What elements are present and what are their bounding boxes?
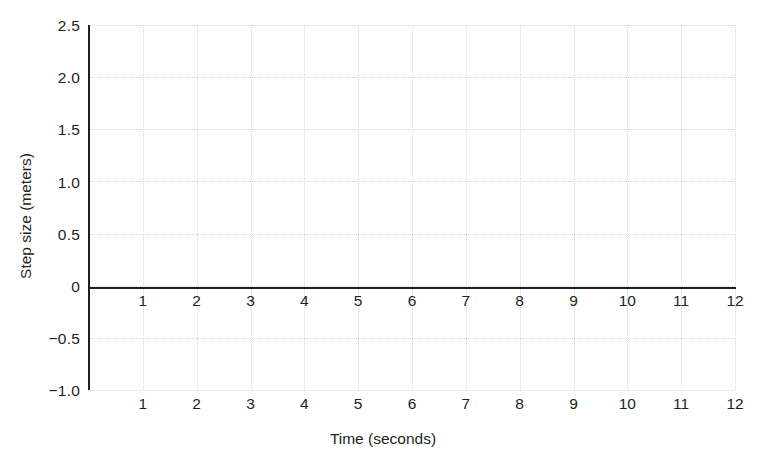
x-tick-label: 6 [392,292,432,310]
gridline-vertical-6 [412,25,413,390]
gridline-vertical-3 [251,25,252,390]
y-tick-label: 2.5 [20,17,80,35]
x-tick-label: 9 [554,292,594,310]
x-tick-label: 9 [554,395,594,413]
y-tick-label: 2.0 [20,69,80,87]
x-tick-label: 11 [661,395,701,413]
x-tick-label: 1 [123,395,163,413]
x-tick-label: 8 [500,395,540,413]
x-tick-label: 5 [338,292,378,310]
x-tick-label: 12 [715,395,755,413]
x-tick-label: 4 [284,292,324,310]
gridline-vertical-12 [735,25,736,390]
gridline-vertical-2 [197,25,198,390]
x-tick-labels-inner: 1 2 3 4 5 6 7 8 9 10 11 12 [89,292,735,312]
chart-figure: 2.5 2.0 1.5 1.0 0.5 0 −0.5 −1.0 1 2 3 4 … [0,0,766,464]
x-tick-label: 2 [177,292,217,310]
y-axis-spine [88,25,90,390]
x-tick-label: 12 [715,292,755,310]
gridline-vertical-10 [627,25,628,390]
x-tick-label: 7 [446,292,486,310]
x-axis-title: Time (seconds) [0,430,766,448]
x-tick-label: 2 [177,395,217,413]
x-tick-label: 3 [231,395,271,413]
gridline-vertical-1 [143,25,144,390]
x-tick-label: 4 [284,395,324,413]
gridline-horizontal-neg1.0 [89,390,735,391]
gridline-vertical-4 [304,25,305,390]
x-tick-label: 7 [446,395,486,413]
gridline-vertical-8 [520,25,521,390]
plot-area [89,25,735,390]
x-tick-labels-outer: 1 2 3 4 5 6 7 8 9 10 11 12 [89,395,735,415]
x-tick-label: 10 [607,395,647,413]
x-tick-label: 10 [607,292,647,310]
gridline-vertical-11 [681,25,682,390]
gridline-vertical-7 [466,25,467,390]
x-tick-label: 6 [392,395,432,413]
y-tick-label: −1.0 [20,382,80,400]
x-tick-label: 5 [338,395,378,413]
x-tick-label: 8 [500,292,540,310]
x-tick-label: 3 [231,292,271,310]
gridline-vertical-9 [574,25,575,390]
y-axis-title: Step size (meters) [17,96,35,336]
zero-axis-line [88,287,736,289]
gridline-vertical-5 [358,25,359,390]
x-tick-label: 11 [661,292,701,310]
x-tick-label: 1 [123,292,163,310]
